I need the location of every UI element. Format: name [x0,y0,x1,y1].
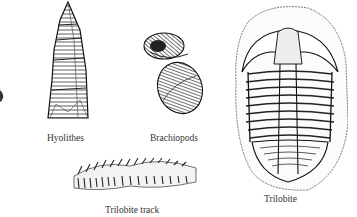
trilobite-label: Trilobite [264,194,297,204]
hyolithes-label: Hyolithes [47,133,84,143]
brachiopods-illustration [140,22,210,122]
trilobite-track-illustration [70,150,200,195]
trilobite-illustration [228,2,348,192]
partial-specimen-edge [0,88,6,104]
hyolithes-illustration [38,0,98,128]
brachiopods-label: Brachiopods [150,133,198,143]
trilobite-track-label: Trilobite track [105,205,159,215]
